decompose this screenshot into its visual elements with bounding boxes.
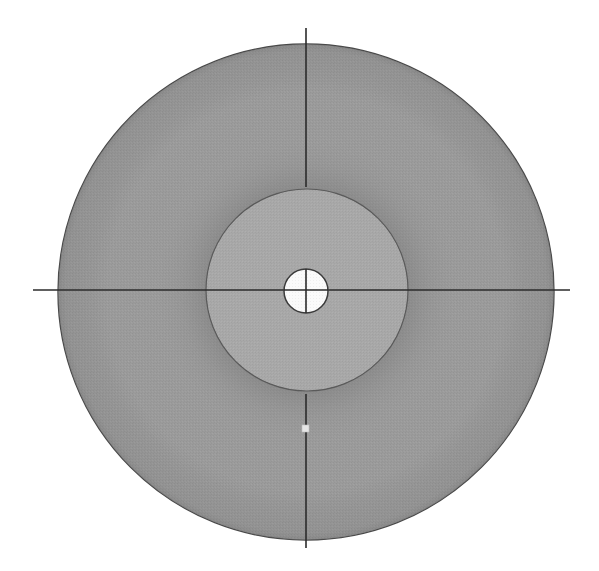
figure-canvas bbox=[0, 0, 599, 571]
scan-figure: outer disc inner hub central bore refere… bbox=[0, 0, 599, 571]
reference-marker bbox=[302, 425, 309, 432]
